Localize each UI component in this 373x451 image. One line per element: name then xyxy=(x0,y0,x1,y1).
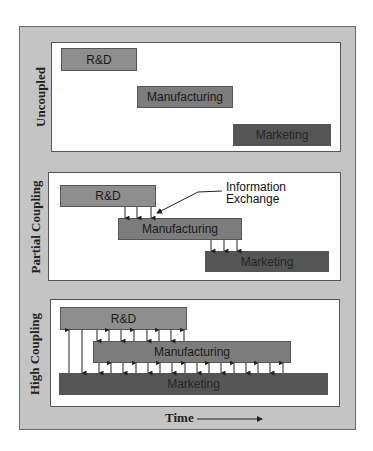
information-exchange-pointer xyxy=(157,191,222,213)
high-rd-mfg-arrows xyxy=(97,330,184,341)
partial-mfg-to-mkt-arrows xyxy=(211,240,237,251)
time-axis-label: Time xyxy=(165,410,194,426)
high-rd-mkt-arrows xyxy=(69,330,82,373)
high-mfg-mkt-arrows xyxy=(99,363,283,373)
arrows-overlay xyxy=(0,0,373,451)
partial-rd-to-mfg-arrows xyxy=(125,207,151,218)
